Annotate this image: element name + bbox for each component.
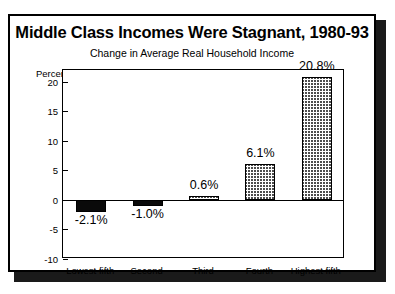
y-axis-tick-label: -10 (30, 254, 58, 265)
bar-fourth (245, 164, 275, 200)
bar-value-label: -1.0% (131, 207, 164, 221)
y-axis-tick-mark (63, 259, 68, 260)
bar-value-label: 0.6% (190, 178, 219, 192)
plot-area: 20151050-5-10 -2.1%-1.0%0.6%6.1%20.8% (62, 69, 344, 258)
chart-subtitle: Change in Average Real Household Income (10, 47, 374, 59)
bar-highest-fifth (302, 77, 332, 200)
y-axis-tick-label: 0 (30, 194, 58, 205)
y-axis-tick-mark (63, 141, 68, 142)
y-axis-tick-label: -5 (30, 224, 58, 235)
x-axis-category-label: Lowest fifth (66, 265, 114, 276)
y-axis-tick-mark (63, 229, 68, 230)
x-axis-category-label: Highest fifth (291, 265, 341, 276)
chart-title: Middle Class Incomes Were Stagnant, 1980… (10, 23, 374, 42)
bar-lowest-fifth (76, 200, 106, 212)
bar-value-label: -2.1% (75, 213, 108, 227)
y-axis-tick-label: 15 (30, 106, 58, 117)
y-axis-tick-mark (63, 170, 68, 171)
y-axis-tick-label: 5 (30, 165, 58, 176)
y-axis-tick-mark (63, 82, 68, 83)
bar-third (189, 196, 219, 200)
y-axis-tick-label: 10 (30, 135, 58, 146)
x-axis-category-label: Third (192, 265, 214, 276)
bar-value-label: 6.1% (246, 146, 275, 160)
x-axis-category-label: Second (130, 265, 162, 276)
y-axis-tick-label: 20 (30, 76, 58, 87)
x-axis-category-label: Fourth (246, 265, 273, 276)
bar-second (133, 200, 163, 206)
bar-value-label: 20.8% (299, 59, 334, 73)
y-axis-tick-mark (63, 111, 68, 112)
figure-frame: Middle Class Incomes Were Stagnant, 1980… (8, 14, 376, 272)
